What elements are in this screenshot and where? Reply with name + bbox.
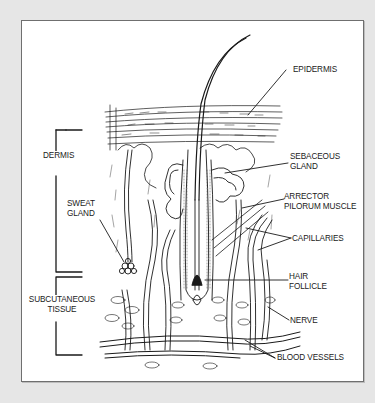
blood-vessels-leader-2 [250,346,275,358]
hair-follicle [180,150,213,305]
label-sebaceous-gland: SEBACEOUS GLAND [290,152,340,171]
label-dermis: DERMIS [42,151,75,161]
label-subcutaneous-tissue: SUBCUTANEOUS TISSUE [28,295,96,314]
label-subcutaneous-line-1: SUBCUTANEOUS [28,295,96,305]
capillaries-leader-1 [246,228,291,238]
label-blood-vessels: BLOOD VESSELS [277,353,344,363]
label-arrector-line-1: ARRECTOR [284,192,356,202]
label-nerve: NERVE [290,316,318,326]
label-sweat-gland: SWEAT GLAND [67,199,95,218]
label-capillaries: CAPILLARIES [292,234,344,244]
label-sweat-gland-line-2: GLAND [67,209,95,219]
label-subcutaneous-line-2: TISSUE [28,305,96,315]
nerve-leader [268,307,289,320]
label-hair-follicle: HAIR FOLLICLE [289,272,327,291]
arrector-leader [242,199,284,208]
label-hair-follicle-line-2: FOLLICLE [289,282,327,292]
label-sebaceous-gland-line-1: SEBACEOUS [290,152,340,162]
sweat-gland-leader [100,220,124,262]
label-arrector-pilorum-muscle: ARRECTOR PILORUM MUSCLE [284,192,356,211]
sebaceous-leader [225,163,288,173]
label-sweat-gland-line-1: SWEAT [67,199,95,209]
fat-lobules [105,297,275,370]
epidermis-leader [248,70,286,115]
subcutaneous-bracket [56,277,82,355]
label-hair-follicle-line-1: HAIR [289,272,327,282]
epidermis-layer [105,105,282,150]
label-arrector-line-2: PILORUM MUSCLE [284,202,356,212]
label-epidermis: EPIDERMIS [293,65,337,75]
sweat-gland [119,150,136,274]
label-sebaceous-gland-line-2: GLAND [290,162,340,172]
